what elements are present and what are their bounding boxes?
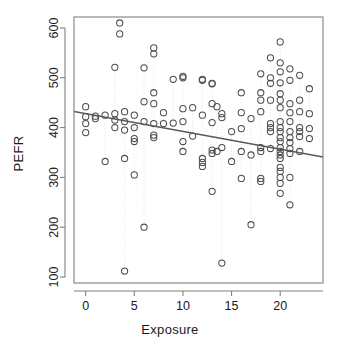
svg-text:600: 600 [47, 17, 61, 38]
pefr-vs-exposure-scatter-chart: 05101520 100200300400500600 [0, 0, 340, 351]
scatter-plot-figure: 05101520 100200300400500600 Exposure PEF… [0, 0, 340, 351]
svg-text:0: 0 [82, 299, 89, 313]
x-axis-title: Exposure [0, 322, 340, 337]
svg-text:200: 200 [47, 217, 61, 238]
gridlines-group [86, 23, 310, 271]
regression-line [74, 112, 323, 158]
svg-text:100: 100 [47, 267, 61, 288]
x-axis: 05101520 [74, 291, 323, 313]
svg-text:20: 20 [273, 299, 287, 313]
svg-text:10: 10 [176, 299, 190, 313]
svg-text:300: 300 [47, 167, 61, 188]
y-axis-title: PEFR [11, 104, 26, 204]
y-axis: 100200300400500600 [47, 17, 65, 287]
data-points-group [83, 20, 313, 274]
svg-text:5: 5 [131, 299, 138, 313]
svg-text:15: 15 [225, 299, 239, 313]
svg-text:500: 500 [47, 67, 61, 88]
svg-text:400: 400 [47, 117, 61, 138]
